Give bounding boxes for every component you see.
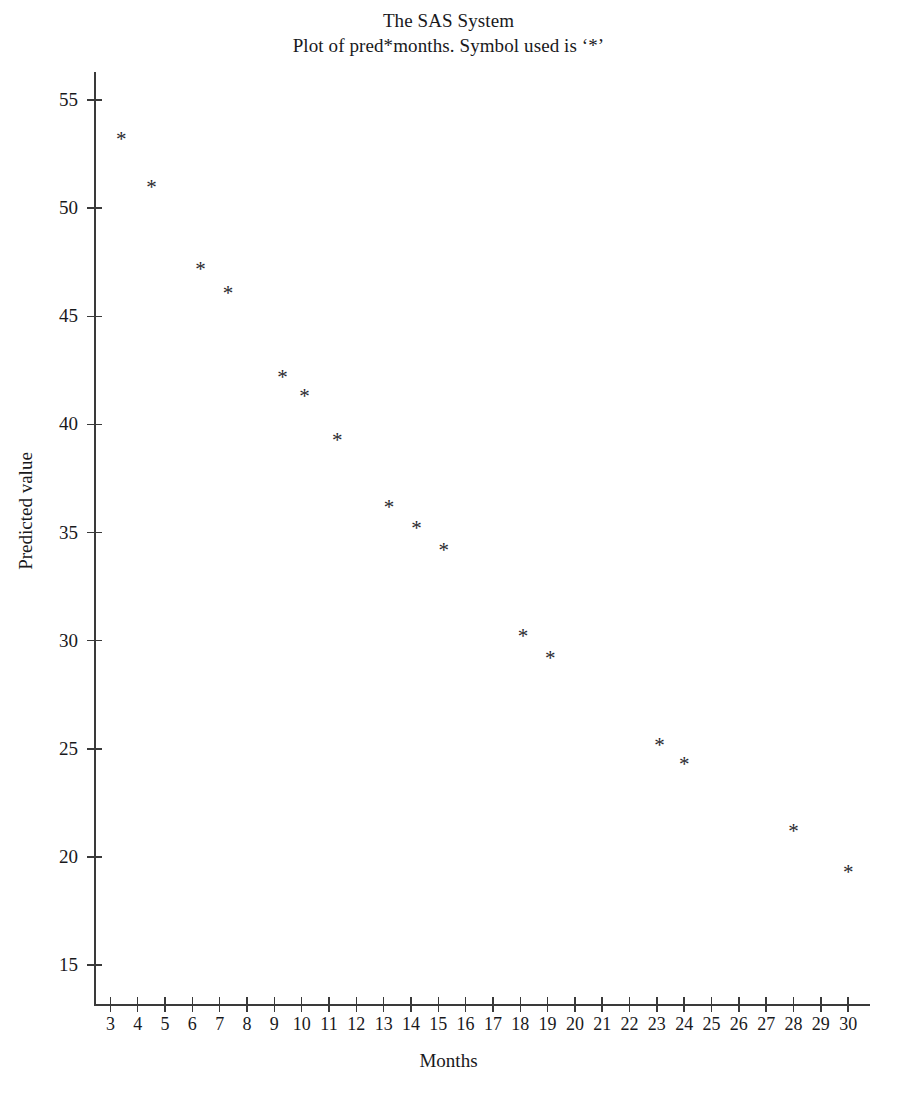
x-axis-tick-label: 4 [133,1014,142,1035]
y-axis-title: Predicted value [15,411,37,611]
x-axis-tick-label: 3 [106,1014,115,1035]
x-axis-tick-label: 5 [161,1014,170,1035]
data-point-marker: * [843,862,854,883]
data-point-marker: * [411,518,422,539]
x-axis-tick-label: 18 [511,1014,529,1035]
x-axis-tick [410,997,412,1012]
x-axis-tick-label: 22 [621,1014,639,1035]
x-axis-tick [765,997,767,1012]
x-axis-tick-label: 10 [293,1014,311,1035]
data-point-marker: * [332,429,343,450]
y-axis-tick [87,207,102,209]
data-point-marker: * [195,258,206,279]
data-point-marker: * [679,753,690,774]
x-axis-tick [629,997,631,1012]
x-axis-tick [328,997,330,1012]
x-axis-tick [492,997,494,1012]
x-axis-tick-label: 17 [484,1014,502,1035]
x-axis-tick [520,997,522,1012]
data-point-marker: * [116,129,127,150]
x-axis-tick [847,997,849,1012]
x-axis-tick-label: 11 [320,1014,337,1035]
data-point-marker: * [384,496,395,517]
x-axis-tick [738,997,740,1012]
x-axis-tick-label: 12 [347,1014,365,1035]
y-axis-tick [87,316,102,318]
data-point-marker: * [223,282,234,303]
y-axis-tick [87,424,102,426]
x-axis-tick [820,997,822,1012]
x-axis-tick-label: 26 [730,1014,748,1035]
x-axis-tick-label: 15 [429,1014,447,1035]
x-axis-tick [219,997,221,1012]
x-axis-tick [547,997,549,1012]
x-axis-tick [793,997,795,1012]
x-axis-tick-label: 27 [757,1014,775,1035]
x-axis-tick-label: 30 [839,1014,857,1035]
x-axis-tick-label: 8 [243,1014,252,1035]
x-axis-tick [192,997,194,1012]
y-axis-tick-label: 15 [32,954,78,976]
data-point-marker: * [788,821,799,842]
data-point-marker: * [277,366,288,387]
x-axis-tick-label: 19 [539,1014,557,1035]
x-axis-tick [246,997,248,1012]
y-axis-tick-label: 45 [32,305,78,327]
sas-plot-page: The SAS System Plot of pred*months. Symb… [0,0,897,1098]
x-axis-tick [683,997,685,1012]
x-axis-tick [274,997,276,1012]
y-axis-tick [87,532,102,534]
x-axis-tick-label: 29 [812,1014,830,1035]
x-axis-tick [574,997,576,1012]
plot-area: 152025303540455055 345678910111213141516… [0,0,897,1098]
x-axis-tick-label: 7 [215,1014,224,1035]
x-axis-tick-label: 6 [188,1014,197,1035]
data-point-marker: * [518,626,529,647]
x-axis-tick [356,997,358,1012]
y-axis-tick-label: 30 [32,630,78,652]
data-point-marker: * [654,734,665,755]
x-axis-tick-label: 28 [784,1014,802,1035]
y-axis-tick-label: 55 [32,89,78,111]
x-axis-tick-label: 24 [675,1014,693,1035]
y-axis-tick-label: 40 [32,413,78,435]
x-axis-tick [711,997,713,1012]
y-axis-tick [87,748,102,750]
data-point-marker: * [545,648,556,669]
x-axis-tick-label: 20 [566,1014,584,1035]
x-axis-tick [601,997,603,1012]
x-axis-tick-label: 16 [457,1014,475,1035]
data-point-marker: * [438,539,449,560]
x-axis-tick [164,997,166,1012]
y-axis-tick-label: 20 [32,846,78,868]
y-axis-tick-label: 50 [32,197,78,219]
x-axis-tick [110,997,112,1012]
x-axis-tick-label: 13 [375,1014,393,1035]
x-axis-tick-label: 23 [648,1014,666,1035]
data-point-marker: * [299,386,310,407]
x-axis-tick [301,997,303,1012]
x-axis-tick-label: 25 [703,1014,721,1035]
x-axis-tick [438,997,440,1012]
y-axis-tick-label: 35 [32,522,78,544]
x-axis-tick [656,997,658,1012]
y-axis-line [94,72,96,1005]
y-axis-tick [87,640,102,642]
data-point-marker: * [146,176,157,197]
x-axis-tick [465,997,467,1012]
x-axis-tick [383,997,385,1012]
x-axis-tick-label: 9 [270,1014,279,1035]
y-axis-tick [87,99,102,101]
y-axis-tick [87,856,102,858]
y-axis-tick-label: 25 [32,738,78,760]
x-axis-line [94,1004,870,1006]
x-axis-title: Months [0,1050,897,1072]
x-axis-tick [137,997,139,1012]
x-axis-tick-label: 14 [402,1014,420,1035]
y-axis-tick [87,964,102,966]
x-axis-tick-label: 21 [593,1014,611,1035]
